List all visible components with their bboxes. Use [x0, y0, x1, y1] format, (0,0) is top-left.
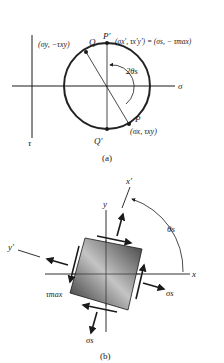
- p-label: P: [134, 114, 141, 124]
- q-coords-label: (σy, −τxy): [38, 40, 70, 49]
- q-prime-label: Q′: [94, 136, 103, 146]
- p-prime-coords-label: (σx′, τx′y′) = (σs, − τmax): [115, 37, 192, 46]
- normal-arrow-top: [117, 214, 123, 236]
- shear-arrow-bottom: [83, 305, 117, 312]
- point-q-dot: [84, 50, 88, 54]
- x-prime-label: x′: [125, 176, 133, 186]
- y-axis-label: y: [102, 199, 107, 209]
- theta-s-label: θs: [167, 224, 175, 234]
- normal-arrow-right: [143, 283, 164, 289]
- tau-axis-label: τ: [28, 138, 32, 148]
- caption-b: (b): [100, 351, 111, 361]
- point-p-dot: [127, 122, 131, 126]
- x-prime-axis: [122, 187, 130, 208]
- normal-arrow-bottom: [91, 312, 97, 333]
- angle-arc-theta: [132, 199, 183, 272]
- normal-arrow-left: [47, 259, 68, 265]
- qp-diameter: [86, 52, 129, 124]
- mohr-circle-figure: σ τ (σy, −τxy) Q P′ (σx′, τx′y′) = (σs, …: [0, 0, 224, 363]
- p-coords-label: (σx, τxy): [130, 127, 157, 136]
- angle-2theta-label: 2θs: [126, 66, 138, 76]
- point-q-prime-dot: [105, 127, 109, 131]
- y-prime-label: y′: [7, 242, 15, 252]
- tau-max-label: τmax: [46, 290, 63, 299]
- sigma-s-right-label: σs: [166, 288, 174, 298]
- point-p-prime-dot: [105, 41, 109, 45]
- figure-b: x y x′ y′ θs τmax σs σs (b): [7, 176, 196, 361]
- caption-a: (a): [102, 153, 112, 163]
- y-prime-axis: [18, 250, 40, 257]
- figure-a: σ τ (σy, −τxy) Q P′ (σx′, τx′y′) = (σs, …: [12, 31, 192, 163]
- sigma-s-bottom-label: σs: [86, 335, 94, 345]
- q-label: Q: [89, 37, 96, 47]
- sigma-axis-label: σ: [178, 81, 183, 91]
- x-axis-label: x: [191, 269, 196, 279]
- p-prime-label: P′: [102, 31, 111, 41]
